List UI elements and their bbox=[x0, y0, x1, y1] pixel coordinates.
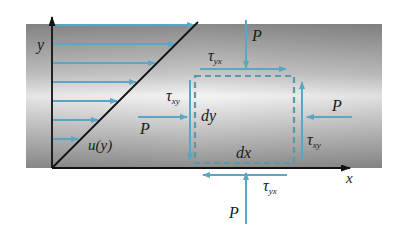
p-left-label: P bbox=[140, 121, 150, 137]
flow-band bbox=[26, 24, 382, 168]
dy-label: dy bbox=[201, 108, 216, 124]
tau-left-label: τxy bbox=[166, 88, 180, 104]
dx-label: dx bbox=[236, 145, 251, 161]
y-axis-label: y bbox=[37, 37, 44, 53]
fluid-element-diagram: y x u(y) dy dx P P P P τyx τxy τxy τyx bbox=[0, 0, 410, 240]
p-right-label: P bbox=[332, 98, 342, 114]
tau-bottom-label: τyx bbox=[263, 178, 277, 194]
velocity-profile-label: u(y) bbox=[88, 138, 112, 153]
x-axis-label: x bbox=[346, 171, 353, 186]
tau-top-label: τyx bbox=[208, 48, 222, 64]
tau-right-label: τxy bbox=[307, 132, 321, 148]
p-top-label: P bbox=[252, 28, 262, 44]
p-bottom-label: P bbox=[229, 205, 239, 221]
